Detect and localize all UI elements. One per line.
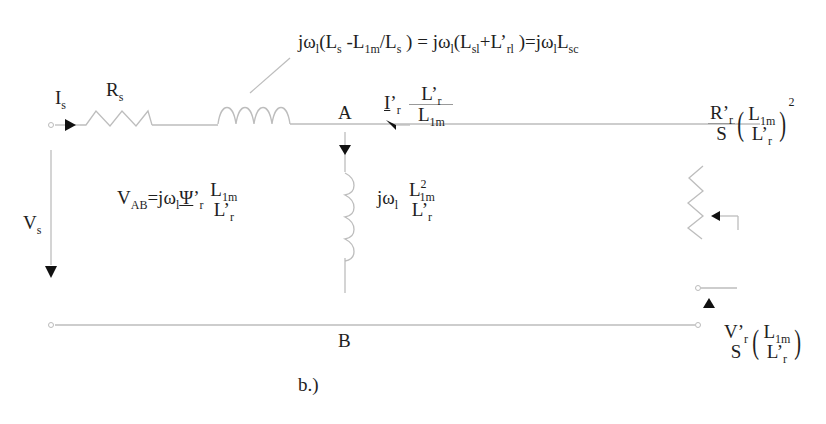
stator-current-arrow bbox=[65, 119, 76, 131]
leakage-inductor bbox=[218, 108, 290, 125]
stator-resistor bbox=[80, 111, 152, 126]
label-rotor-resistance: R’r S ( L1m L’r )2 bbox=[708, 102, 795, 144]
rotor-voltage-arrow bbox=[703, 298, 715, 308]
label-stator-voltage: Vs bbox=[23, 213, 41, 232]
magnetizing-current-arrow bbox=[339, 145, 351, 155]
figure-caption: b.) bbox=[298, 375, 319, 394]
vs-arrow bbox=[45, 266, 57, 278]
terminal-rotor-top bbox=[696, 286, 701, 291]
magnetizing-inductor bbox=[345, 173, 354, 261]
terminal-top-left bbox=[49, 123, 54, 128]
label-stator-current: Is bbox=[55, 88, 66, 107]
node-a-label: A bbox=[338, 103, 352, 122]
label-vab: VAB=jωlΨ’r L1m L’r bbox=[117, 180, 239, 220]
label-stator-resistance: Rs bbox=[106, 80, 123, 99]
label-rotor-current: I’r L’r L1m bbox=[384, 84, 453, 125]
terminal-rotor-bottom bbox=[696, 323, 701, 328]
node-b-label: B bbox=[338, 331, 351, 350]
label-leakage-inductance: jωl(Ls -L1m/Ls ) = jωl(Lsl+L’rl )=jωlLsc bbox=[298, 32, 579, 51]
label-rotor-voltage: V’r S ( L1m L’r ) bbox=[722, 322, 804, 362]
rotor-resistance-arrow bbox=[711, 211, 720, 221]
rotor-resistor bbox=[688, 166, 703, 239]
label-magnetizing-reactance: jωl L21m L’r bbox=[377, 180, 437, 220]
leader-line bbox=[250, 58, 290, 93]
terminal-bottom-left bbox=[49, 323, 54, 328]
